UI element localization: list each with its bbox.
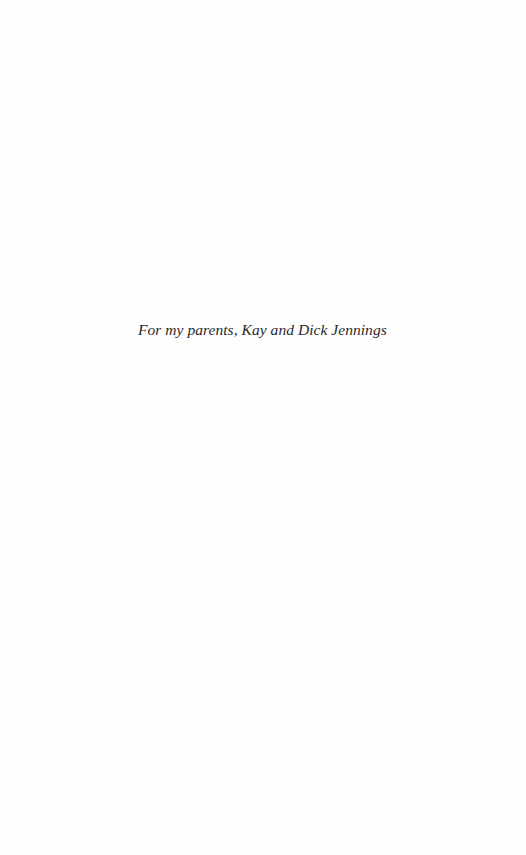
dedication-text: For my parents, Kay and Dick Jennings: [138, 320, 387, 340]
book-page: For my parents, Kay and Dick Jennings: [0, 0, 526, 855]
